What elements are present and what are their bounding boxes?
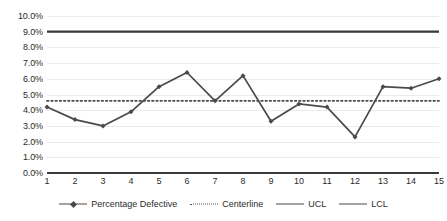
data-point-marker [45,105,50,110]
legend-swatch-icon [59,200,87,209]
data-point-marker [73,117,78,122]
x-tick-label: 9 [268,176,273,186]
x-axis: 123456789101112131415 [47,176,439,190]
x-tick-label: 15 [434,176,444,186]
x-tick-label: 13 [378,176,388,186]
y-tick-label: 2.0% [23,137,43,147]
y-tick-label: 1.0% [23,152,43,162]
data-point-marker [409,86,414,91]
y-tick-label: 4.0% [23,105,43,115]
y-tick-label: 0.0% [23,168,43,178]
legend-item[interactable]: Percentage Defective [59,199,177,209]
x-tick-label: 14 [406,176,416,186]
legend-item[interactable]: LCL [339,199,388,209]
x-tick-label: 1 [44,176,49,186]
y-tick-label: 7.0% [23,58,43,68]
legend-swatch-icon [339,200,367,209]
x-tick-label: 10 [294,176,304,186]
chart-canvas [47,16,439,173]
legend-swatch-icon [190,200,218,209]
y-axis: 0.0%1.0%2.0%3.0%4.0%5.0%6.0%7.0%8.0%9.0%… [0,16,43,173]
data-point-marker [437,76,442,81]
y-tick-label: 9.0% [23,27,43,37]
x-tick-label: 5 [156,176,161,186]
x-tick-label: 2 [72,176,77,186]
control-chart: 0.0%1.0%2.0%3.0%4.0%5.0%6.0%7.0%8.0%9.0%… [0,0,447,221]
x-tick-label: 6 [184,176,189,186]
legend-label: UCL [308,199,326,209]
x-tick-label: 3 [100,176,105,186]
legend-item[interactable]: Centerline [190,199,263,209]
legend-label: Centerline [222,199,263,209]
x-tick-label: 11 [322,176,331,186]
x-tick-label: 7 [212,176,217,186]
x-tick-label: 4 [128,176,133,186]
y-tick-label: 10.0% [18,11,43,21]
legend-swatch-icon [276,200,304,209]
y-tick-label: 8.0% [23,42,43,52]
legend-label: Percentage Defective [91,199,177,209]
series-line-percentage-defective [47,73,439,137]
y-tick-label: 3.0% [23,121,43,131]
legend-label: LCL [371,199,388,209]
y-tick-label: 6.0% [23,74,43,84]
chart-legend: Percentage DefectiveCenterlineUCLLCL [0,194,447,214]
plot-area [47,16,439,173]
legend-item[interactable]: UCL [276,199,326,209]
x-tick-label: 12 [350,176,360,186]
y-tick-label: 5.0% [23,90,43,100]
x-tick-label: 8 [240,176,245,186]
